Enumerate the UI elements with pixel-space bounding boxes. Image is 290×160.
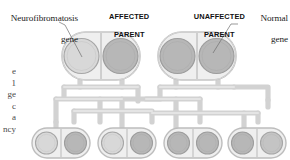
normal-label-line1: Normal bbox=[261, 13, 288, 23]
inheritance-diagram: Neurofibromatosis gene Normal gene AFFEC… bbox=[0, 0, 290, 160]
child-cell-4 bbox=[228, 128, 286, 158]
gene-normal bbox=[197, 132, 219, 154]
nf-label-line2: gene bbox=[2, 34, 78, 45]
margin-fragment: ncy bbox=[0, 124, 16, 136]
margin-fragment: ge bbox=[0, 89, 16, 101]
normal-label-line2: gene bbox=[252, 34, 288, 45]
unaffected-parent-label: UNAFFECTED PARENT bbox=[178, 3, 252, 48]
child-cell-3 bbox=[164, 128, 222, 158]
cropped-margin-text: e 1 ge c a ncy bbox=[0, 66, 16, 136]
unaffected-label-line1: UNAFFECTED bbox=[194, 12, 245, 21]
margin-fragment: c bbox=[0, 101, 16, 113]
margin-fragment: e bbox=[0, 66, 16, 78]
nf-label-line1: Neurofibromatosis bbox=[11, 13, 78, 23]
child-cell-1 bbox=[32, 128, 90, 158]
margin-fragment: a bbox=[0, 112, 16, 124]
gene-neurofibromatosis bbox=[102, 132, 124, 154]
neurofibromatosis-gene-label: Neurofibromatosis gene bbox=[2, 2, 78, 65]
gene-neurofibromatosis bbox=[36, 132, 58, 154]
affected-label-line1: AFFECTED bbox=[109, 12, 149, 21]
affected-label-line2: PARENT bbox=[114, 30, 144, 39]
gene-normal bbox=[168, 132, 190, 154]
gene-normal bbox=[131, 132, 153, 154]
gene-normal bbox=[232, 132, 254, 154]
gene-normal bbox=[261, 132, 283, 154]
unaffected-label-line2: PARENT bbox=[204, 30, 234, 39]
tube-far-right bbox=[234, 87, 268, 100]
affected-parent-label: AFFECTED PARENT bbox=[92, 3, 158, 48]
margin-fragment: 1 bbox=[0, 78, 16, 90]
gene-normal bbox=[65, 132, 87, 154]
child-cell-2 bbox=[98, 128, 156, 158]
normal-gene-label: Normal gene bbox=[252, 2, 288, 65]
